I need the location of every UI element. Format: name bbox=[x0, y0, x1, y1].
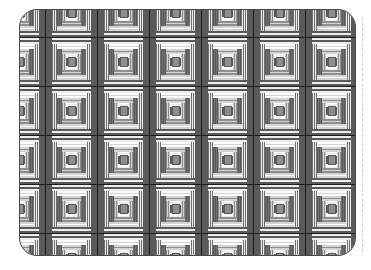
block-side-right bbox=[77, 103, 81, 119]
block-side-right bbox=[190, 93, 195, 129]
quilt-block bbox=[98, 9, 150, 38]
block-side-right bbox=[190, 142, 195, 178]
block-core bbox=[19, 204, 24, 214]
block-side-right bbox=[237, 147, 242, 173]
block-side-right bbox=[341, 147, 346, 173]
block-side-right bbox=[351, 9, 356, 37]
quilt-block bbox=[150, 87, 202, 136]
block-side-right bbox=[129, 152, 133, 168]
block-band-bottom bbox=[150, 227, 201, 233]
block-band-bottom bbox=[98, 31, 149, 37]
block-side-right bbox=[34, 9, 39, 31]
block-side-left bbox=[218, 250, 222, 256]
dashed-guide-rule bbox=[362, 18, 363, 252]
block-side-right bbox=[39, 185, 45, 233]
quilt-block bbox=[254, 136, 306, 185]
block-side-right bbox=[247, 38, 253, 86]
block-side-right bbox=[195, 87, 201, 135]
block-core bbox=[19, 9, 24, 18]
block-side-left bbox=[166, 250, 170, 256]
block-side-right bbox=[138, 44, 143, 80]
block-side-right bbox=[143, 234, 149, 256]
block-side-right bbox=[91, 38, 97, 86]
block-side-right bbox=[233, 54, 237, 70]
block-side-right bbox=[34, 142, 39, 178]
block-band-bottom bbox=[306, 129, 356, 135]
block-side-right bbox=[143, 185, 149, 233]
block-side-right bbox=[138, 240, 143, 256]
block-side-right bbox=[34, 93, 39, 129]
block-side-right bbox=[299, 9, 305, 37]
quilt-block bbox=[150, 185, 202, 234]
block-band-bottom bbox=[98, 227, 149, 233]
block-side-right bbox=[341, 245, 346, 256]
block-band-bottom bbox=[202, 227, 253, 233]
block-side-right bbox=[285, 250, 289, 256]
block-side-right bbox=[34, 191, 39, 227]
block-core bbox=[120, 204, 128, 214]
block-band-bottom bbox=[46, 80, 97, 86]
block-core bbox=[224, 106, 232, 116]
quilt-block bbox=[306, 38, 356, 87]
block-side-right bbox=[185, 9, 190, 26]
block-band-bottom bbox=[150, 129, 201, 135]
block-side-right bbox=[81, 49, 86, 75]
block-side-right bbox=[181, 201, 185, 217]
block-band-bottom bbox=[98, 80, 149, 86]
block-side-right bbox=[346, 44, 351, 80]
quilt-block bbox=[306, 136, 356, 185]
block-side-left bbox=[270, 250, 274, 256]
block-core bbox=[68, 204, 76, 214]
block-side-right bbox=[299, 185, 305, 233]
block-side-right bbox=[86, 240, 91, 256]
block-side-right bbox=[285, 152, 289, 168]
block-side-right bbox=[190, 240, 195, 256]
block-band-bottom bbox=[202, 80, 253, 86]
block-band-bottom bbox=[254, 80, 305, 86]
block-side-right bbox=[25, 54, 29, 70]
block-band-bottom bbox=[46, 178, 97, 184]
block-core bbox=[68, 9, 76, 18]
block-side-right bbox=[285, 54, 289, 70]
quilt-block bbox=[306, 185, 356, 234]
block-side-right bbox=[351, 38, 356, 86]
quilt-block bbox=[46, 87, 98, 136]
block-core bbox=[328, 9, 336, 18]
block-band-bottom bbox=[98, 178, 149, 184]
block-side-right bbox=[237, 98, 242, 124]
block-side-right bbox=[91, 185, 97, 233]
quilt-block bbox=[98, 38, 150, 87]
block-side-right bbox=[86, 142, 91, 178]
block-side-right bbox=[285, 103, 289, 119]
block-core bbox=[276, 106, 284, 116]
block-side-right bbox=[129, 201, 133, 217]
block-band-bottom bbox=[150, 31, 201, 37]
block-side-right bbox=[29, 9, 34, 26]
quilt-block bbox=[19, 136, 46, 185]
block-side-right bbox=[138, 191, 143, 227]
block-side-right bbox=[195, 136, 201, 184]
block-core bbox=[224, 9, 232, 18]
block-side-right bbox=[337, 9, 341, 21]
block-side-right bbox=[77, 152, 81, 168]
quilt-block bbox=[202, 87, 254, 136]
quilt-block bbox=[150, 38, 202, 87]
quilt-block bbox=[19, 234, 46, 256]
block-core bbox=[68, 155, 76, 165]
block-side-right bbox=[185, 98, 190, 124]
block-side-right bbox=[294, 44, 299, 80]
block-side-right bbox=[341, 98, 346, 124]
block-side-right bbox=[185, 245, 190, 256]
block-side-right bbox=[91, 87, 97, 135]
block-side-right bbox=[181, 54, 185, 70]
block-core bbox=[120, 155, 128, 165]
block-side-right bbox=[143, 136, 149, 184]
block-side-right bbox=[133, 49, 138, 75]
block-side-right bbox=[242, 191, 247, 227]
block-side-right bbox=[341, 196, 346, 222]
block-side-right bbox=[299, 87, 305, 135]
block-side-left bbox=[62, 250, 66, 256]
block-core bbox=[276, 57, 284, 67]
block-side-right bbox=[185, 49, 190, 75]
quilt-block bbox=[46, 9, 98, 38]
